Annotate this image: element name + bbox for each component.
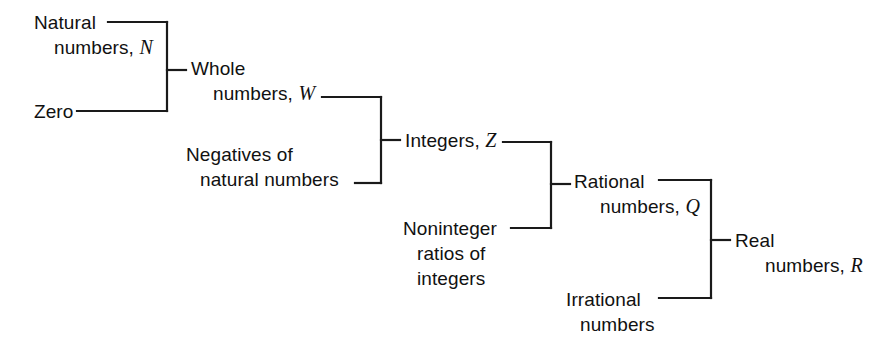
node-natural-line1: Natural: [34, 12, 96, 33]
node-noninteger-ratios: Noninteger ratios of integers: [403, 216, 497, 291]
node-negatives-of-natural-numbers: Negatives of natural numbers: [186, 142, 339, 192]
node-zero-line1: Zero: [34, 101, 73, 122]
node-zero: Zero: [34, 99, 73, 124]
node-irrational-numbers: Irrational numbers: [566, 287, 655, 337]
bracket-rational-numbers: [503, 142, 570, 228]
symbol-Q: Q: [685, 195, 700, 217]
node-rational-line1: Rational: [574, 171, 645, 192]
node-negatives-line2: natural numbers: [186, 167, 339, 192]
node-noninteger-line2: ratios of: [403, 241, 497, 266]
node-integers: Integers, Z: [405, 128, 496, 153]
node-real-numbers: Real numbers, R: [735, 228, 863, 278]
node-real-line2: numbers, R: [735, 253, 863, 278]
node-natural-line2: numbers, N: [34, 35, 153, 60]
node-whole-line1: Whole: [191, 58, 245, 79]
node-whole-line2: numbers, W: [191, 81, 315, 106]
symbol-W: W: [298, 82, 315, 104]
node-integers-line1: Integers, Z: [405, 130, 496, 151]
node-rational-numbers: Rational numbers, Q: [574, 169, 700, 219]
node-negatives-line1: Negatives of: [186, 144, 293, 165]
node-noninteger-line3: integers: [403, 266, 497, 291]
symbol-N: N: [139, 36, 152, 58]
node-whole-numbers: Whole numbers, W: [191, 56, 315, 106]
symbol-R: R: [850, 254, 862, 276]
node-noninteger-line1: Noninteger: [403, 218, 497, 239]
node-irrational-line2: numbers: [566, 312, 655, 337]
node-real-line1: Real: [735, 230, 774, 251]
node-irrational-line1: Irrational: [566, 289, 641, 310]
number-systems-diagram: Natural numbers, N Zero Whole numbers, W…: [0, 0, 874, 349]
node-rational-line2: numbers, Q: [574, 194, 700, 219]
symbol-Z: Z: [485, 129, 496, 151]
node-natural-numbers: Natural numbers, N: [34, 10, 153, 60]
